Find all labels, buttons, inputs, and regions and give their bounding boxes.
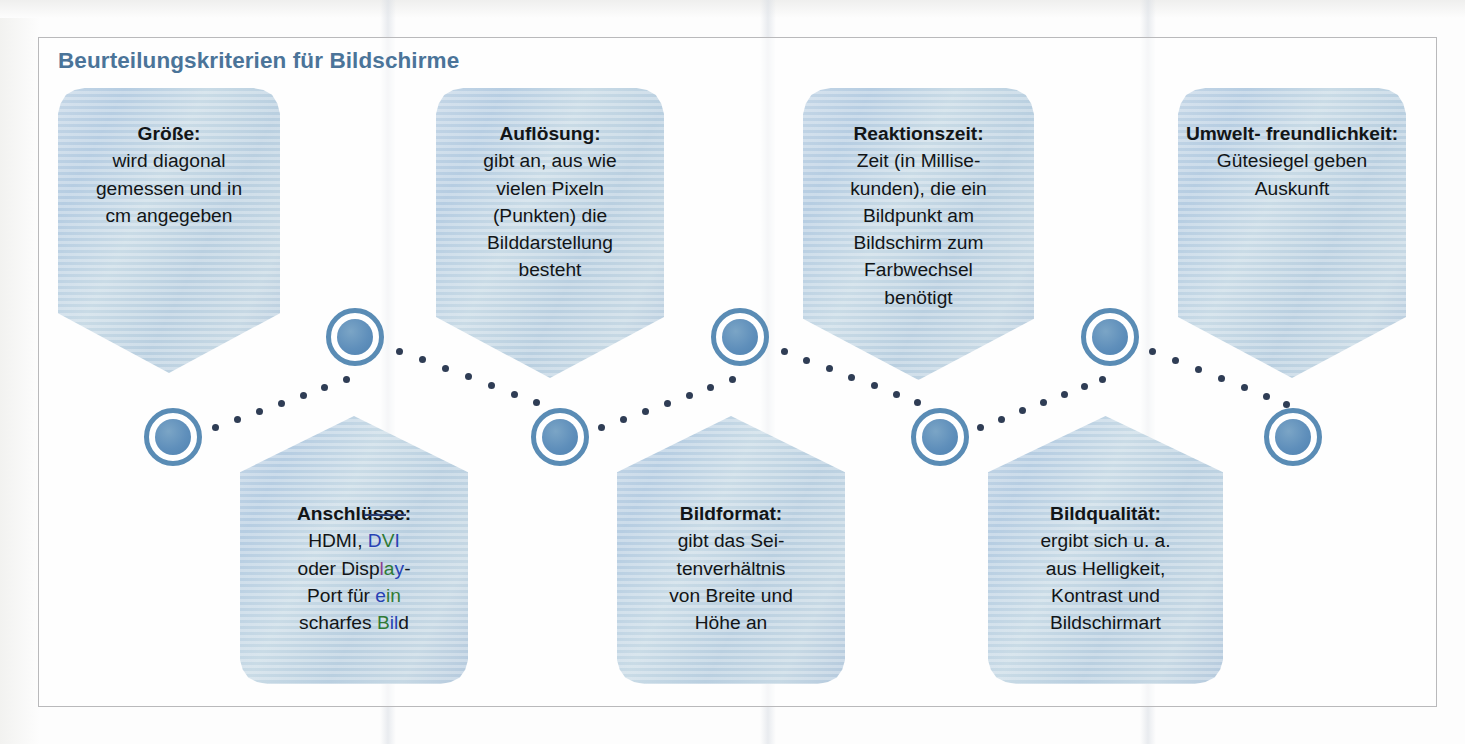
connector-node-1[interactable] <box>144 408 202 466</box>
connector-dot <box>914 399 921 406</box>
node-core-icon <box>1275 419 1311 455</box>
card-line: vielen Pixeln <box>441 175 659 202</box>
card-line: HDMI, DVI <box>245 527 463 554</box>
card-line: wird diagonal <box>63 147 275 174</box>
criteria-card-groesse[interactable]: Größe: wird diagonal gemessen und in cm … <box>58 88 280 373</box>
connector-node-6[interactable] <box>1081 308 1139 366</box>
card-line: scharfes Bild <box>245 609 463 636</box>
card-line: tenverhältnis <box>622 555 840 582</box>
connector-dot <box>1283 401 1290 408</box>
connector-dot <box>1081 383 1088 390</box>
connector-dot <box>533 399 540 406</box>
connector-node-4[interactable] <box>711 308 769 366</box>
card-title: Bildformat: <box>622 500 840 527</box>
connector-dot <box>511 391 518 398</box>
connector-dot <box>871 382 878 389</box>
connector-dot <box>1149 348 1156 355</box>
criteria-card-reaktionszeit[interactable]: Reaktionszeit: Zeit (in Millise- kunden)… <box>803 88 1034 380</box>
connector-dot <box>396 348 403 355</box>
card-title: Größe: <box>63 120 275 147</box>
card-line: Höhe an <box>622 609 840 636</box>
connector-dot <box>1099 376 1106 383</box>
connector-dot <box>977 424 984 431</box>
card-line: Port für ein <box>245 582 463 609</box>
card-title: Umwelt- freundlichkeit: <box>1183 120 1401 147</box>
node-core-icon <box>542 419 578 455</box>
connector-dot <box>300 392 307 399</box>
connector-node-2[interactable] <box>326 308 384 366</box>
card-line: gemessen und in <box>63 175 275 202</box>
card-title: Bildqualität: <box>993 500 1218 527</box>
connector-dot <box>893 391 900 398</box>
connector-dot <box>212 424 219 431</box>
card-line: gibt an, aus wie <box>441 147 659 174</box>
card-line: von Breite und <box>622 582 840 609</box>
card-line: Bildschirm zum <box>808 229 1029 256</box>
card-line: Farbwechsel <box>808 256 1029 283</box>
connector-dot <box>598 424 605 431</box>
connector-dot <box>321 384 328 391</box>
node-core-icon <box>155 419 191 455</box>
card-description: gibt das Sei- tenverhältnis von Breite u… <box>622 527 840 636</box>
node-core-icon <box>1092 319 1128 355</box>
criteria-card-anschluesse[interactable]: Anschlüsse: HDMI, DVI oder Display- Port… <box>240 416 468 684</box>
card-line: Auskunft <box>1183 175 1401 202</box>
connector-node-7[interactable] <box>1264 408 1322 466</box>
card-line: Kontrast und <box>993 582 1218 609</box>
criteria-card-bildqualitaet[interactable]: Bildqualität: ergibt sich u. a. aus Hell… <box>988 416 1223 684</box>
card-description: wird diagonal gemessen und in cm angegeb… <box>63 147 275 229</box>
scan-artifact-strikethrough <box>365 514 406 516</box>
criteria-card-bildformat[interactable]: Bildformat: gibt das Sei- tenverhältnis … <box>617 416 845 684</box>
connector-dot <box>664 400 671 407</box>
connector-dot <box>686 392 693 399</box>
card-title-line: Umwelt- <box>1186 123 1261 144</box>
card-line: besteht <box>441 256 659 283</box>
node-core-icon <box>722 319 758 355</box>
card-line: oder Display- <box>245 555 463 582</box>
card-line: Bildschirmart <box>993 609 1218 636</box>
connector-dot <box>1061 391 1068 398</box>
diagram-canvas: Größe: wird diagonal gemessen und in cm … <box>0 0 1465 744</box>
card-line: Bilddarstellung <box>441 229 659 256</box>
card-description: HDMI, DVI oder Display- Port für ein sch… <box>245 527 463 636</box>
card-line: ergibt sich u. a. <box>993 527 1218 554</box>
card-title-line: freundlichkeit: <box>1266 123 1398 144</box>
connector-dot <box>278 400 285 407</box>
connector-dot <box>488 382 495 389</box>
card-line: Gütesiegel geben <box>1183 147 1401 174</box>
card-title: Reaktionszeit: <box>808 120 1029 147</box>
connector-dot <box>256 408 263 415</box>
card-line: (Punkten) die <box>441 202 659 229</box>
node-core-icon <box>922 419 958 455</box>
connector-dot <box>729 376 736 383</box>
card-line: Zeit (in Millise- <box>808 147 1029 174</box>
card-title: Anschlüsse: <box>297 500 411 527</box>
connector-dot <box>781 348 788 355</box>
card-description: ergibt sich u. a. aus Helligkeit, Kontra… <box>993 527 1218 636</box>
connector-dot <box>1263 393 1270 400</box>
connector-dot <box>343 376 350 383</box>
card-line: aus Helligkeit, <box>993 555 1218 582</box>
connector-dot <box>642 408 649 415</box>
connector-dot <box>1241 384 1248 391</box>
connector-dot <box>707 384 714 391</box>
card-description: gibt an, aus wie vielen Pixeln (Punkten)… <box>441 147 659 283</box>
connector-dot <box>1019 407 1026 414</box>
card-line: Bildpunkt am <box>808 202 1029 229</box>
connector-node-3[interactable] <box>531 408 589 466</box>
connector-dot <box>419 356 426 363</box>
connector-dot <box>1040 399 1047 406</box>
card-description: Zeit (in Millise- kunden), die ein Bildp… <box>808 147 1029 311</box>
criteria-card-umweltfreundlichkeit[interactable]: Umwelt- freundlichkeit: Gütesiegel geben… <box>1178 88 1406 378</box>
card-line: cm angegeben <box>63 202 275 229</box>
criteria-card-aufloesung[interactable]: Auflösung: gibt an, aus wie vielen Pixel… <box>436 88 664 378</box>
node-core-icon <box>337 319 373 355</box>
card-description: Gütesiegel geben Auskunft <box>1183 147 1401 202</box>
card-title: Auflösung: <box>441 120 659 147</box>
card-line: kunden), die ein <box>808 175 1029 202</box>
card-line: gibt das Sei- <box>622 527 840 554</box>
connector-node-5[interactable] <box>911 408 969 466</box>
card-line: benötigt <box>808 284 1029 311</box>
